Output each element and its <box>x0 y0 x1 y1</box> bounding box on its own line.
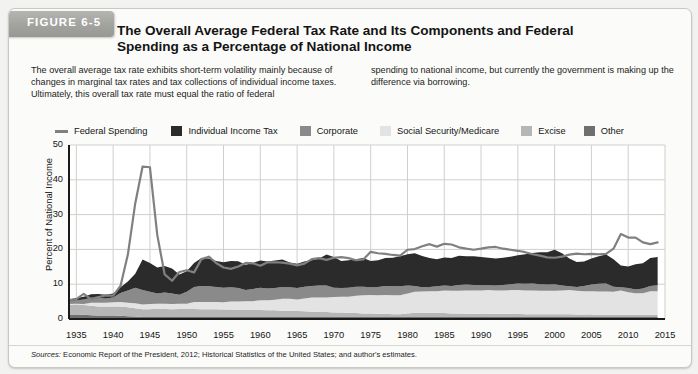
figure-number-label: FIGURE 6-5 <box>27 16 101 28</box>
x-axis-tick-label: 1985 <box>427 330 461 340</box>
x-axis-tick-label: 1970 <box>317 330 351 340</box>
legend-item-label: Corporate <box>317 126 358 136</box>
legend-swatch-icon <box>521 126 532 136</box>
y-axis-tick-label: 30 <box>39 209 63 219</box>
source-note: Sources: Economic Report of the Presiden… <box>31 350 417 359</box>
area-chart-svg <box>29 141 679 346</box>
x-axis-tick-label: 1990 <box>464 330 498 340</box>
x-axis-tick-label: 1955 <box>207 330 241 340</box>
chart-area: Percent of National Income 0102030405019… <box>29 141 679 346</box>
legend-item-label: Federal Spending <box>74 126 147 136</box>
x-axis-tick-label: 1965 <box>280 330 314 340</box>
legend-item-individual-income-tax[interactable]: Individual Income Tax <box>171 126 277 136</box>
y-axis-tick-label: 40 <box>39 174 63 184</box>
y-axis-tick-label: 20 <box>39 243 63 253</box>
legend-item-other[interactable]: Other <box>584 126 624 136</box>
x-axis-tick-label: 1980 <box>390 330 424 340</box>
x-axis-tick-label: 2015 <box>648 330 682 340</box>
legend-swatch-icon <box>171 126 182 136</box>
legend-swatch-icon <box>300 126 311 136</box>
x-axis-tick-label: 2005 <box>574 330 608 340</box>
y-axis-tick-label: 50 <box>39 139 63 149</box>
x-axis-tick-label: 2000 <box>538 330 572 340</box>
legend-item-social-security-medicare[interactable]: Social Security/Medicare <box>380 126 499 136</box>
figure-panel: FIGURE 6-5 The Overall Average Federal T… <box>8 8 692 368</box>
legend-swatch-icon <box>584 126 595 136</box>
intro-paragraph-left: The overall average tax rate exhibits sh… <box>31 64 361 100</box>
x-axis-tick-label: 1940 <box>96 330 130 340</box>
source-text: Economic Report of the President, 2012; … <box>61 350 417 359</box>
legend-item-excise[interactable]: Excise <box>521 126 565 136</box>
y-axis-tick-label: 0 <box>39 313 63 323</box>
x-axis-tick-label: 1935 <box>59 330 93 340</box>
x-axis-tick-label: 1945 <box>133 330 167 340</box>
x-axis-tick-label: 1960 <box>243 330 277 340</box>
x-axis-tick-label: 1995 <box>501 330 535 340</box>
x-axis-tick-label: 1950 <box>170 330 204 340</box>
chart-legend: Federal SpendingIndividual Income TaxCor… <box>55 122 675 140</box>
legend-item-label: Individual Income Tax <box>188 126 277 136</box>
legend-item-corporate[interactable]: Corporate <box>300 126 358 136</box>
source-prefix: Sources: <box>31 350 61 359</box>
intro-paragraph-right: spending to national income, but current… <box>371 64 681 88</box>
legend-item-federal-spending[interactable]: Federal Spending <box>55 126 147 136</box>
legend-swatch-icon <box>380 126 391 136</box>
x-axis-tick-label: 1975 <box>354 330 388 340</box>
legend-line-marker-icon <box>55 130 68 133</box>
legend-item-label: Excise <box>538 126 565 136</box>
x-axis-tick-label: 2010 <box>611 330 645 340</box>
figure-number-tab: FIGURE 6-5 <box>8 11 114 37</box>
y-axis-tick-label: 10 <box>39 278 63 288</box>
legend-item-label: Other <box>601 126 624 136</box>
figure-title: The Overall Average Federal Tax Rate and… <box>117 23 637 54</box>
source-divider <box>9 345 691 346</box>
legend-item-label: Social Security/Medicare <box>397 126 499 136</box>
